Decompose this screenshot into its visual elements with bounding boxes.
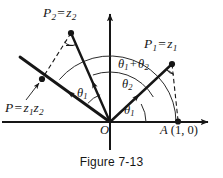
label-theta-sum: θ1+θ2 [118, 58, 149, 72]
ray-o-to-p1-direction-arrow [133, 95, 139, 101]
label-p1: P1=z1 [144, 37, 177, 53]
label-p2: P2=z2 [43, 6, 76, 22]
leader-to-product-point [26, 83, 39, 100]
theta1-arc [141, 104, 146, 122]
figure-caption: Figure 7-13 [0, 155, 223, 169]
leader-line-group [26, 83, 39, 100]
label-origin: O [100, 124, 109, 137]
label-theta1-left: θ1 [77, 87, 88, 101]
point-marker-product [39, 76, 45, 82]
label-theta2: θ2 [122, 78, 133, 92]
point-marker-p2 [68, 30, 74, 36]
figure-7-13: P2=z2 P1=z1 P=z1z2 θ1+θ2 θ2 θ1 θ1 O A (1… [0, 0, 223, 178]
label-theta1-right: θ1 [124, 104, 135, 118]
label-a-point: A (1, 0) [160, 124, 198, 137]
label-product-point: P=z1z2 [5, 101, 44, 117]
diagram-canvas [0, 0, 223, 178]
point-marker-p1 [169, 61, 175, 67]
